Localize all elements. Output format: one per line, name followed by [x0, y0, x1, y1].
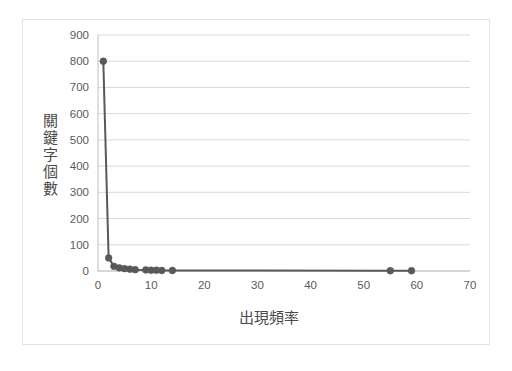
x-tick-label-40: 40 — [304, 279, 317, 291]
y-tick-label-900: 900 — [70, 29, 89, 41]
x-tick-label-30: 30 — [251, 279, 264, 291]
data-point-marker — [387, 267, 394, 274]
chart-figure: 0100200300400500600700800900 01020304050… — [0, 0, 512, 371]
plot-axis-lines — [98, 35, 470, 271]
y-tick-label-800: 800 — [70, 55, 89, 67]
x-tick-label-10: 10 — [145, 279, 158, 291]
data-point-marker — [158, 267, 165, 274]
x-tick-label-50: 50 — [357, 279, 370, 291]
data-point-marker — [132, 266, 139, 273]
y-axis-title-char: 關 — [38, 112, 62, 129]
y-tick-label-600: 600 — [70, 108, 89, 120]
x-axis-title: 出現頻率 — [0, 306, 512, 327]
y-tick-labels: 0100200300400500600700800900 — [70, 29, 89, 277]
x-axis-title-text: 出現頻率 — [239, 309, 299, 326]
y-axis-title-char: 字 — [38, 146, 62, 163]
x-tick-labels: 010203040506070 — [95, 279, 477, 291]
data-point-marker — [105, 254, 112, 261]
y-tick-label-300: 300 — [70, 186, 89, 198]
y-axis-title-char: 個 — [38, 163, 62, 180]
y-tick-label-100: 100 — [70, 239, 89, 251]
gridlines — [98, 35, 470, 271]
data-point-marker — [408, 267, 415, 274]
y-tick-label-400: 400 — [70, 160, 89, 172]
x-tick-label-70: 70 — [464, 279, 477, 291]
x-tick-label-0: 0 — [95, 279, 101, 291]
y-tick-label-0: 0 — [83, 265, 89, 277]
data-point-marker — [100, 58, 107, 65]
y-axis-title-char: 數 — [38, 180, 62, 197]
y-axis-title: 關鍵字個數 — [38, 112, 62, 197]
y-tick-label-200: 200 — [70, 213, 89, 225]
x-tick-label-60: 60 — [410, 279, 423, 291]
x-tick-label-20: 20 — [198, 279, 211, 291]
y-tick-label-500: 500 — [70, 134, 89, 146]
y-axis-title-char: 鍵 — [38, 129, 62, 146]
y-tick-label-700: 700 — [70, 81, 89, 93]
data-point-marker — [169, 267, 176, 274]
